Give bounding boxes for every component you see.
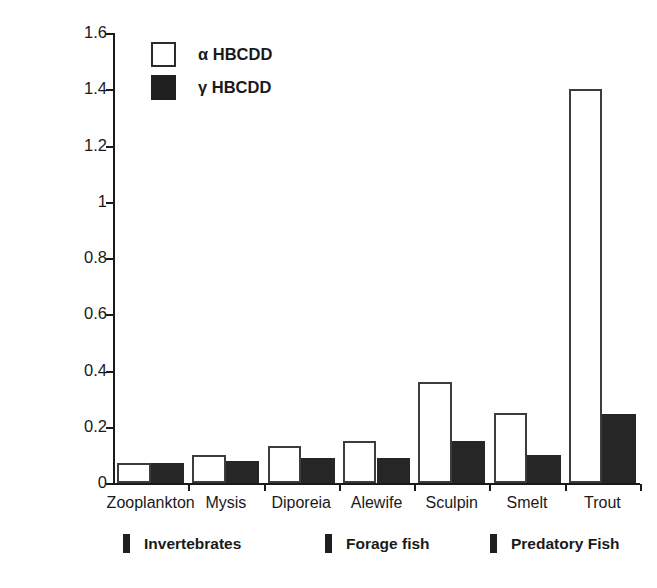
chart-legend: α HBCDD γ HBCDD: [151, 38, 272, 104]
group-annotation-label: Invertebrates: [144, 535, 241, 553]
y-axis-tick-mark: [106, 258, 114, 260]
x-axis-category-label: Diporeia: [271, 494, 331, 512]
bar-gamma: [602, 414, 636, 483]
bar-alpha: [418, 382, 452, 483]
group-annotation-label: Predatory Fish: [511, 535, 620, 553]
legend-item-gamma: γ HBCDD: [151, 71, 272, 104]
y-axis-tick-label: 1.6: [47, 23, 107, 42]
x-axis-category-label: Trout: [584, 494, 621, 512]
chart-figure: Concentration ng/g wt 00.20.40.60.811.21…: [0, 0, 657, 588]
y-axis-tick-label: 1: [47, 192, 107, 211]
x-axis-category-label: Mysis: [205, 494, 246, 512]
group-annotation-label: Forage fish: [346, 535, 430, 553]
bar-gamma: [452, 441, 486, 483]
x-axis-tick-mark: [565, 484, 567, 491]
group-annotation: Forage fish: [325, 534, 430, 553]
legend-swatch-gamma-icon: [151, 75, 176, 100]
y-axis-tick-label: 0.6: [47, 304, 107, 323]
x-axis-tick-mark: [489, 484, 491, 491]
x-axis-category-label: Alewife: [351, 494, 403, 512]
legend-swatch-alpha-icon: [151, 42, 176, 67]
y-axis-tick-label: 0.2: [47, 417, 107, 436]
x-axis-tick-mark: [414, 484, 416, 491]
y-axis-tick-mark: [106, 371, 114, 373]
legend-label-gamma: γ HBCDD: [198, 78, 271, 97]
y-axis-tick-mark: [106, 89, 114, 91]
legend-label-alpha: α HBCDD: [198, 45, 272, 64]
group-marker-icon: [325, 534, 332, 553]
group-marker-icon: [490, 534, 497, 553]
x-axis-category-labels: ZooplanktonMysisDiporeiaAlewifeSculpinSm…: [113, 494, 640, 518]
y-axis-tick-label: 1.4: [47, 79, 107, 98]
y-axis-tick-label: 0.8: [47, 248, 107, 267]
y-axis-tick-mark: [106, 33, 114, 35]
x-axis-category-label: Zooplankton: [107, 494, 195, 512]
y-axis-tick-label: 1.2: [47, 136, 107, 155]
x-axis-tick-mark: [264, 484, 266, 491]
group-annotation: Invertebrates: [123, 534, 241, 553]
bar-alpha: [192, 455, 226, 483]
y-axis-tick-mark: [106, 427, 114, 429]
bar-alpha: [268, 446, 302, 483]
y-axis-tick-label: 0: [47, 473, 107, 492]
x-axis-category-label: Smelt: [507, 494, 548, 512]
bar-alpha: [494, 413, 528, 483]
y-axis-tick-mark: [106, 483, 114, 485]
group-marker-icon: [123, 534, 130, 553]
group-annotation: Predatory Fish: [490, 534, 620, 553]
bar-alpha: [569, 89, 603, 483]
bar-alpha: [117, 463, 151, 483]
bar-gamma: [226, 461, 260, 484]
x-axis-category-label: Sculpin: [426, 494, 478, 512]
bar-alpha: [343, 441, 377, 483]
y-axis-tick-mark: [106, 202, 114, 204]
x-axis-line: [113, 483, 640, 485]
bar-gamma: [301, 458, 335, 483]
bar-gamma: [377, 458, 411, 483]
y-axis-tick-mark: [106, 146, 114, 148]
bar-gamma: [151, 463, 185, 483]
x-axis-tick-mark: [188, 484, 190, 491]
y-axis-tick-mark: [106, 314, 114, 316]
legend-item-alpha: α HBCDD: [151, 38, 272, 71]
x-axis-tick-mark: [339, 484, 341, 491]
y-axis-tick-label: 0.4: [47, 361, 107, 380]
bar-gamma: [527, 455, 561, 483]
group-annotations: InvertebratesForage fishPredatory Fish: [113, 534, 657, 560]
x-axis-tick-mark: [640, 484, 642, 491]
